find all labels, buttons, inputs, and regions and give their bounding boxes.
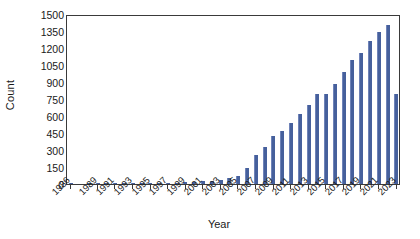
y-axis-tick-label: 750 (18, 95, 64, 106)
bar (377, 32, 381, 184)
bar (333, 84, 337, 184)
y-axis-title: Count (2, 0, 18, 190)
bar-series (67, 16, 399, 184)
bar (307, 105, 311, 184)
y-axis-tick-label: 1500 (18, 10, 64, 21)
chart-figure: Count 0150300450600750900105012001350150… (0, 0, 420, 239)
bar (289, 123, 293, 184)
y-axis-tick-label: 600 (18, 112, 64, 123)
bar (298, 114, 302, 184)
x-axis-tick-mark (396, 185, 397, 189)
x-axis-tick-mark (70, 185, 71, 189)
y-axis-tick-label: 1050 (18, 61, 64, 72)
bar (368, 41, 372, 184)
y-axis-tick-label: 150 (18, 163, 64, 174)
bar (394, 94, 398, 184)
y-axis-tick-labels: 01503004506007509001050120013501500 (18, 0, 64, 239)
y-axis-title-text: Count (4, 80, 16, 110)
y-axis-tick-label: 900 (18, 78, 64, 89)
y-axis-tick-label: 1350 (18, 27, 64, 38)
x-axis-title-text: Year (208, 218, 230, 230)
bar (386, 25, 390, 184)
plot-area (66, 15, 400, 185)
x-axis-title: Year (0, 218, 420, 230)
bar (359, 53, 363, 184)
bar (315, 94, 319, 184)
y-axis-tick-label: 300 (18, 146, 64, 157)
bar (350, 60, 354, 184)
bar (271, 136, 275, 184)
bar (324, 94, 328, 184)
y-axis-tick-label: 1200 (18, 44, 64, 55)
bar (342, 72, 346, 184)
y-axis-tick-label: 450 (18, 129, 64, 140)
